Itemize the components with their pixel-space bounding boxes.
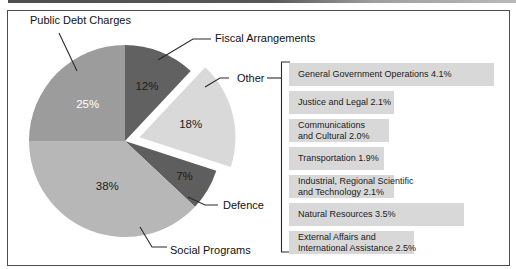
breakdown-bar-industrial-regional-scientific-and-technology-2-1: Industrial, Regional Scientificand Techn…	[289, 175, 394, 198]
other-breakdown-list: General Government Operations 4.1%Justic…	[0, 0, 516, 269]
breakdown-bar-transportation-1-9: Transportation 1.9%	[289, 147, 384, 170]
breakdown-bar-text: General Government Operations 4.1%	[298, 69, 494, 80]
breakdown-bar-text: Natural Resources 3.5%	[298, 209, 464, 220]
breakdown-bar-text: Communications	[298, 120, 389, 131]
breakdown-bar-general-government-operations-4-1: General Government Operations 4.1%	[289, 63, 494, 86]
breakdown-bar-text: and Technology 2.1%	[298, 187, 394, 198]
breakdown-bar-justice-and-legal-2-1: Justice and Legal 2.1%	[289, 91, 394, 114]
breakdown-bar-text: Industrial, Regional Scientific	[298, 176, 394, 187]
breakdown-bar-text: External Affairs and	[298, 232, 414, 243]
figure-canvas: 12%18%7%38%25% Public Debt Charges Fisca…	[0, 0, 516, 269]
breakdown-bar-text: International Assistance 2.5%	[298, 243, 414, 254]
breakdown-bar-text: and Cultural 2.0%	[298, 131, 389, 142]
breakdown-bar-text: Justice and Legal 2.1%	[298, 97, 394, 108]
breakdown-bar-communications-and-cultural-2-0: Communicationsand Cultural 2.0%	[289, 119, 389, 142]
breakdown-bar-external-affairs-and-international-assistance-2-5: External Affairs andInternational Assist…	[289, 231, 414, 254]
breakdown-bar-natural-resources-3-5: Natural Resources 3.5%	[289, 203, 464, 226]
breakdown-bar-text: Transportation 1.9%	[298, 153, 384, 164]
